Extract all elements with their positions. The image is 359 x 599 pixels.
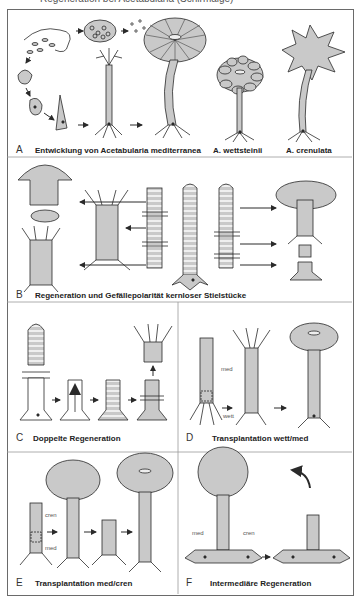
acetabularia-crenulata xyxy=(282,25,345,142)
caption-d: Transplantation wett/med xyxy=(212,434,308,443)
panel-d-drawings xyxy=(190,323,338,428)
regenerated-cap-with-second-cap xyxy=(18,165,72,222)
panel-f-drawings xyxy=(185,447,350,563)
panel-a-drawings xyxy=(18,18,345,142)
mediterranea-cap-e xyxy=(117,453,173,572)
cren-med-stalk xyxy=(30,503,42,553)
acetabularia-wettsteinii xyxy=(217,56,263,142)
rhizoid-base-3 xyxy=(98,380,128,420)
panel-c-drawings xyxy=(20,324,172,420)
caption-b: Regeneration und Gefällepolarität kernlo… xyxy=(35,291,246,300)
caption-crenulata: A. crenulata xyxy=(286,146,332,155)
panel-c-arrows xyxy=(52,366,153,400)
cut-stalk-right xyxy=(214,184,240,268)
panel-letter-c: C xyxy=(16,432,23,443)
rhizoid-fragment xyxy=(290,262,322,280)
released-spores xyxy=(131,20,145,32)
gametes xyxy=(27,39,55,54)
label-med-d: med xyxy=(221,366,233,372)
cyst xyxy=(84,20,116,42)
panel-e-drawings xyxy=(20,453,173,572)
zygote xyxy=(18,70,32,84)
rhizoids-f-right xyxy=(273,550,350,563)
intermediate-cap xyxy=(198,447,248,550)
regenerate-arrow xyxy=(292,470,310,488)
caption-a: Entwicklung von Acetabularia mediterrane… xyxy=(35,146,201,155)
panel-letter-b: B xyxy=(16,289,23,300)
caption-wettsteinii: A. wettsteinii xyxy=(213,146,262,155)
panel-letter-d: D xyxy=(186,432,193,443)
regenerated-cap-d xyxy=(290,323,338,428)
stalk-top-piece xyxy=(28,324,44,365)
regenerated-whorl-base xyxy=(144,342,162,362)
grafted-rhizoids-f xyxy=(185,550,262,563)
regenerated-rhizoid-stalk xyxy=(22,226,60,292)
germling xyxy=(56,95,67,130)
label-cren-f: cren xyxy=(243,530,255,536)
label-cren-e: cren xyxy=(45,512,57,518)
label-med-e: med xyxy=(45,545,57,551)
juvenile-alga xyxy=(95,48,122,138)
label-wett-d: wett xyxy=(223,413,234,419)
panel-b-drawings xyxy=(18,165,336,292)
panel-letter-f: F xyxy=(186,577,192,588)
regenerated-cap-right xyxy=(276,181,336,280)
label-med-f: med xyxy=(192,530,204,536)
regenerated-whorl-d xyxy=(233,328,270,425)
med-stalk xyxy=(200,338,213,403)
acetabularia-mediterranea xyxy=(144,18,206,138)
rhizoid-base-1 xyxy=(20,378,52,420)
caption-e: Transplantation med/cren xyxy=(35,579,132,588)
cut-stalk-e xyxy=(102,520,116,555)
cut-stalk-f xyxy=(307,515,319,550)
caption-f: Intermediäre Regeneration xyxy=(210,579,311,588)
no-regeneration-fragment xyxy=(299,245,311,257)
intact-stalk-center xyxy=(172,184,208,290)
panel-letter-a: A xyxy=(16,144,23,155)
panel-letter-e: E xyxy=(16,577,23,588)
panel-a-arrows xyxy=(26,31,142,125)
caption-c: Doppelte Regeneration xyxy=(33,434,121,443)
